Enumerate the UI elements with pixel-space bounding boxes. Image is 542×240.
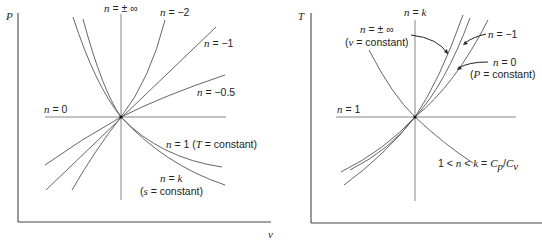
pv-label-n-minus-1: n = −1 xyxy=(204,37,234,49)
ts-label-n-k: n = k xyxy=(404,6,427,18)
pv-label-n-k: n = k xyxy=(160,172,183,184)
pv-curve-n-k xyxy=(73,17,225,185)
pv-y-axis-label: P xyxy=(5,10,13,22)
pv-state-point xyxy=(119,115,122,118)
ts-curve-n-between-1-and-k xyxy=(369,50,473,163)
ts-label-v-constant: (v = constant) xyxy=(345,36,409,48)
pv-curve-n-minus-1 xyxy=(46,27,216,190)
pv-label-n-infinity: n = ± ∞ xyxy=(104,2,138,14)
ts-arrow-n-minus-1 xyxy=(465,34,486,43)
pv-label-n-minus-0.5: n = −0.5 xyxy=(197,86,235,98)
pv-label-s-constant: (s = constant) xyxy=(140,185,203,197)
ts-label-range-1-n-k: 1 < n < k = Cp/Cv xyxy=(438,157,518,172)
ts-arrow-n-infinity xyxy=(411,35,448,54)
pv-label-n-0: n = 0 xyxy=(44,103,67,115)
ts-label-p-constant: (P = constant) xyxy=(470,68,535,80)
ts-y-axis-label: T xyxy=(298,10,305,22)
pv-diagram: P v n = ± ∞ n = −2 n = −1 n = −0.5 xyxy=(5,2,273,240)
ts-label-n-1: n = 1 xyxy=(337,103,360,115)
ts-label-n-0: n = 0 xyxy=(493,56,516,68)
ts-diagram: T n = k n = ± ∞ (v = constant) n = −1 xyxy=(298,6,542,223)
pv-curve-n-minus-2 xyxy=(72,20,165,190)
pv-label-n-minus-2: n = −2 xyxy=(160,6,190,18)
polytropic-process-diagrams: P v n = ± ∞ n = −2 n = −1 n = −0.5 xyxy=(0,0,542,240)
ts-label-n-minus-1: n = −1 xyxy=(488,28,518,40)
pv-label-n-1: n = 1 (T = constant) xyxy=(166,138,257,150)
ts-state-point xyxy=(413,115,416,118)
ts-label-n-infinity: n = ± ∞ xyxy=(360,23,394,35)
pv-x-axis-label: v xyxy=(268,228,273,240)
